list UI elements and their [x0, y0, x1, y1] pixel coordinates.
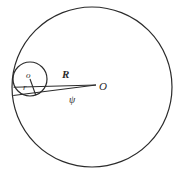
label-large-radius: R	[62, 69, 69, 80]
geometry-figure: o r R O ψ	[0, 0, 183, 177]
figure-canvas	[0, 0, 183, 177]
label-large-circle-center: O	[99, 81, 107, 92]
label-angle-psi: ψ	[69, 95, 75, 105]
label-small-radius: r	[23, 83, 27, 92]
label-small-circle-center: o	[26, 71, 31, 80]
